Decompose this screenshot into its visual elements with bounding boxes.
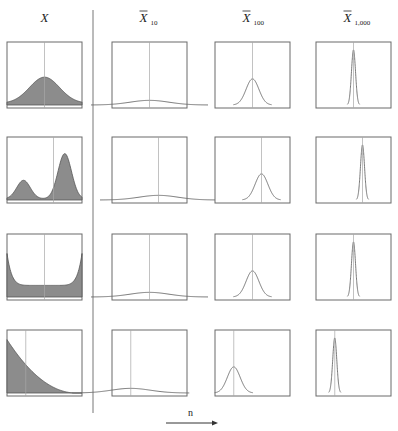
column-header-label: X xyxy=(139,10,149,25)
panel-bimodal-xbar100 xyxy=(215,137,290,203)
column-header-label: X xyxy=(40,10,50,25)
panel-bimodal-x xyxy=(7,137,82,203)
clt-figure: XX10X100X1,000 n xyxy=(0,0,398,431)
column-header-xbar10: X10 xyxy=(139,10,158,27)
column-header-label: X xyxy=(343,10,353,25)
panel-frame xyxy=(215,330,290,396)
panel-normal-xbar100 xyxy=(215,42,290,108)
column-header-x: X xyxy=(40,10,50,25)
column-header-label: X xyxy=(242,10,252,25)
panel-normal-xbar1000 xyxy=(316,42,391,108)
panel-right_skewed-xbar10 xyxy=(72,330,189,396)
panel-right_skewed-x xyxy=(7,330,82,396)
panel-right_skewed-xbar100 xyxy=(215,330,290,396)
panel-normal-x xyxy=(7,42,82,108)
panel-u_shaped-xbar1000 xyxy=(316,234,391,300)
n-label: n xyxy=(188,407,193,418)
panel-u_shaped-xbar100 xyxy=(215,234,290,300)
n-arrow: n xyxy=(166,407,218,426)
panel-frame xyxy=(112,330,187,396)
column-header-xbar100: X100 xyxy=(242,10,265,27)
column-header-subscript: 100 xyxy=(254,19,265,27)
column-header-subscript: 1,000 xyxy=(355,19,371,27)
panel-frame xyxy=(112,137,187,203)
panel-u_shaped-x xyxy=(7,234,82,300)
panel-bimodal-xbar10 xyxy=(100,137,217,203)
panel-bimodal-xbar1000 xyxy=(316,137,391,203)
panel-frame xyxy=(215,137,290,203)
arrow-head xyxy=(212,421,218,426)
column-header-subscript: 10 xyxy=(151,19,159,27)
panel-frame xyxy=(316,330,391,396)
panel-normal-xbar10 xyxy=(91,42,208,108)
panel-right_skewed-xbar1000 xyxy=(316,330,391,396)
panel-u_shaped-xbar10 xyxy=(91,234,208,300)
panel-frame xyxy=(316,137,391,203)
column-header-xbar1000: X1,000 xyxy=(343,10,371,27)
